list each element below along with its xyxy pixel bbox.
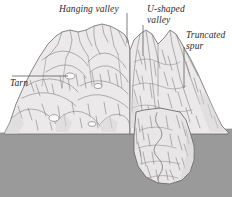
u-shaped-valley-lobe bbox=[134, 108, 194, 184]
label-u-shaped-valley: U-shaped valley bbox=[147, 4, 185, 26]
bedrock-block bbox=[0, 129, 232, 197]
label-hanging-valley: Hanging valley bbox=[59, 4, 119, 15]
label-tarn: Tarn bbox=[10, 78, 28, 89]
label-truncated-spur: Truncated spur bbox=[186, 30, 225, 52]
